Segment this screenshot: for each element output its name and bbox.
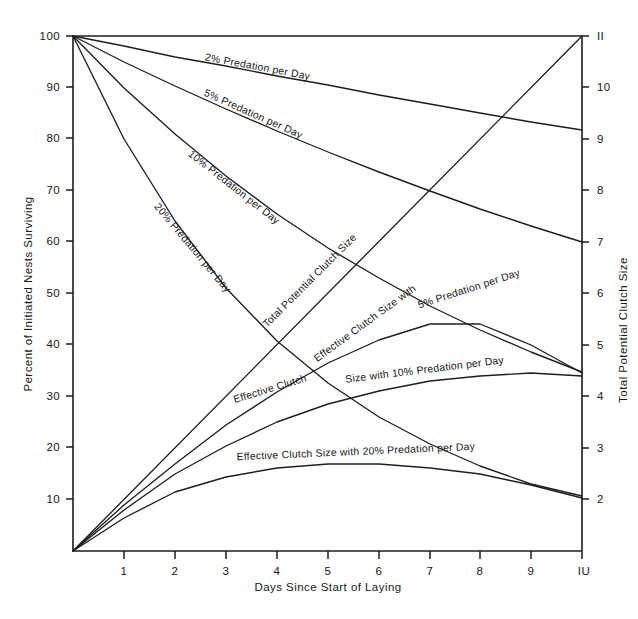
left-ticklabel-30: 30 xyxy=(46,390,60,402)
right-ticklabel-10: 10 xyxy=(597,81,611,93)
x-ticklabel-10: IU xyxy=(578,565,590,577)
right-ticklabel-7: 7 xyxy=(597,236,604,248)
left-ticklabel-20: 20 xyxy=(46,441,60,453)
chart-background xyxy=(0,0,638,619)
nest-survival-chart: 100 90 80 70 60 50 40 30 20 10 Percent o… xyxy=(0,0,638,619)
left-ticklabel-60: 60 xyxy=(46,235,60,247)
right-ticklabel-8: 8 xyxy=(597,184,604,196)
x-ticklabel-4: 4 xyxy=(274,565,281,577)
right-ticklabel-5: 5 xyxy=(597,339,604,351)
right-ticklabel-9: 9 xyxy=(597,133,604,145)
figure-container: 100 90 80 70 60 50 40 30 20 10 Percent o… xyxy=(0,0,638,619)
right-ticklabel-3: 3 xyxy=(597,442,604,454)
x-ticklabel-9: 9 xyxy=(528,565,535,577)
left-ticklabel-10: 10 xyxy=(46,493,60,505)
x-ticklabel-8: 8 xyxy=(477,565,484,577)
left-ticklabel-80: 80 xyxy=(46,132,60,144)
right-ticklabel-4: 4 xyxy=(597,390,604,402)
left-ticklabel-50: 50 xyxy=(46,287,60,299)
right-ticklabel-2: 2 xyxy=(597,493,604,505)
right-ticklabel-11: II xyxy=(597,30,604,42)
left-ticklabel-70: 70 xyxy=(46,184,60,196)
x-ticklabel-3: 3 xyxy=(223,565,230,577)
y2-axis-title: Total Potential Clutch Size xyxy=(617,257,629,403)
x-axis-title: Days Since Start of Laying xyxy=(254,581,401,593)
left-ticklabel-90: 90 xyxy=(46,81,60,93)
right-ticklabel-6: 6 xyxy=(597,287,604,299)
left-ticklabel-100: 100 xyxy=(40,30,60,42)
left-ticklabel-40: 40 xyxy=(46,338,60,350)
x-ticklabel-6: 6 xyxy=(376,565,383,577)
x-ticklabel-7: 7 xyxy=(427,565,434,577)
y-axis-title: Percent of Initiated Nests Surviving xyxy=(22,196,34,391)
x-ticklabel-2: 2 xyxy=(172,565,179,577)
x-ticklabel-1: 1 xyxy=(121,565,128,577)
x-ticklabel-5: 5 xyxy=(325,565,332,577)
